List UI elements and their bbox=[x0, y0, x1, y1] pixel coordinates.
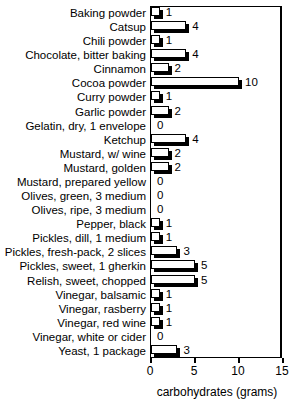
bar-value-label: 1 bbox=[166, 231, 172, 244]
bar-category-label: Baking powder bbox=[70, 6, 146, 21]
bar-value-label: 1 bbox=[166, 90, 172, 103]
bar-body bbox=[151, 106, 169, 115]
x-axis-tick bbox=[238, 358, 240, 363]
bar-body bbox=[151, 7, 160, 16]
bar-value-label: 4 bbox=[192, 133, 198, 146]
bar-row: Chili powder1 bbox=[0, 34, 294, 49]
bar-row: Pickles, dill, 1 medium1 bbox=[0, 231, 294, 246]
bar bbox=[151, 134, 190, 146]
bar-category-label: Vinegar, rasberry bbox=[59, 302, 146, 317]
bar bbox=[151, 77, 243, 89]
bar bbox=[151, 289, 164, 301]
x-axis-tick-label: 10 bbox=[223, 364, 253, 378]
bar-row: Vinegar, rasberry1 bbox=[0, 302, 294, 317]
bar bbox=[151, 7, 164, 19]
bar-value-label: 0 bbox=[157, 330, 163, 343]
bar-value-label: 0 bbox=[157, 175, 163, 188]
bar bbox=[151, 106, 173, 118]
bar-category-label: Mustard, golden bbox=[64, 161, 146, 176]
x-axis-tick bbox=[150, 358, 152, 363]
bar-body bbox=[151, 303, 160, 312]
bar-value-label: 2 bbox=[175, 147, 181, 160]
bar-value-label: 1 bbox=[166, 302, 172, 315]
bar-body bbox=[151, 148, 169, 157]
bar bbox=[151, 218, 164, 230]
bar-category-label: Vinegar, red wine bbox=[57, 316, 146, 331]
bar bbox=[151, 303, 164, 315]
bar bbox=[151, 148, 173, 160]
bar-category-label: Catsup bbox=[110, 20, 146, 35]
bar-body bbox=[151, 246, 177, 255]
bar bbox=[151, 275, 199, 287]
bar-category-label: Relish, sweet, chopped bbox=[27, 274, 146, 289]
bar-body bbox=[151, 289, 160, 298]
bar-value-label: 3 bbox=[183, 245, 189, 258]
bar-row: Olives, green, 3 medium0 bbox=[0, 189, 294, 204]
bar-row: Garlic powder2 bbox=[0, 105, 294, 120]
x-axis-title: carbohydrates (grams) bbox=[140, 385, 294, 399]
bar-row: Yeast, 1 package3 bbox=[0, 344, 294, 359]
bar-category-label: Cocoa powder bbox=[72, 76, 146, 91]
bar-row: Pickles, fresh-pack, 2 slices3 bbox=[0, 245, 294, 260]
bar-body bbox=[151, 260, 195, 269]
bar-body bbox=[151, 35, 160, 44]
bar-value-label: 10 bbox=[245, 76, 258, 89]
bar bbox=[151, 49, 190, 61]
bar bbox=[151, 91, 164, 103]
bar-value-label: 1 bbox=[166, 34, 172, 47]
bar-body bbox=[151, 232, 160, 241]
bar-body bbox=[151, 77, 239, 86]
bar-value-label: 5 bbox=[201, 274, 207, 287]
bar-value-label: 0 bbox=[157, 203, 163, 216]
bar-body bbox=[151, 162, 169, 171]
bar-category-label: Mustard, prepared yellow bbox=[17, 175, 146, 190]
bar-category-label: Ketchup bbox=[104, 133, 146, 148]
bar-category-label: Vinegar, white or cider bbox=[32, 330, 146, 345]
bar-value-label: 1 bbox=[166, 217, 172, 230]
bar bbox=[151, 232, 164, 244]
x-axis-tick-label: 5 bbox=[179, 364, 209, 378]
bar-row: Vinegar, white or cider0 bbox=[0, 330, 294, 345]
bar-category-label: Olives, green, 3 medium bbox=[21, 189, 146, 204]
bar-row: Vinegar, red wine1 bbox=[0, 316, 294, 331]
bar-row: Mustard, golden2 bbox=[0, 161, 294, 176]
bar-value-label: 1 bbox=[166, 316, 172, 329]
bar-body bbox=[151, 218, 160, 227]
bar-category-label: Pepper, black bbox=[76, 217, 146, 232]
chart-title: MISCELLANEOUS FOODS bbox=[0, 0, 294, 3]
bar-category-label: Mustard, w/ wine bbox=[60, 147, 146, 162]
x-axis-tick bbox=[282, 358, 284, 363]
bar bbox=[151, 345, 181, 357]
x-axis-tick-label: 15 bbox=[267, 364, 294, 378]
bar bbox=[151, 35, 164, 47]
bar bbox=[151, 162, 173, 174]
bar-row: Baking powder1 bbox=[0, 6, 294, 21]
bar-row: Ketchup4 bbox=[0, 133, 294, 148]
x-axis-tick-label: 0 bbox=[135, 364, 165, 378]
bar-value-label: 1 bbox=[166, 288, 172, 301]
bar-row: Cocoa powder10 bbox=[0, 76, 294, 91]
bar-body bbox=[151, 317, 160, 326]
bar-row: Olives, ripe, 3 medium0 bbox=[0, 203, 294, 218]
bar-body bbox=[151, 63, 169, 72]
bar-value-label: 4 bbox=[192, 48, 198, 61]
bar-category-label: Pickles, sweet, 1 gherkin bbox=[19, 259, 146, 274]
bar-value-label: 0 bbox=[157, 189, 163, 202]
bar-body bbox=[151, 49, 186, 58]
bar-body bbox=[151, 21, 186, 30]
bar-body bbox=[151, 91, 160, 100]
bar-category-label: Chili powder bbox=[83, 34, 146, 49]
bar-row: Gelatin, dry, 1 envelope0 bbox=[0, 119, 294, 134]
bar bbox=[151, 260, 199, 272]
bar-category-label: Chocolate, bitter baking bbox=[25, 48, 146, 63]
bar-value-label: 2 bbox=[175, 62, 181, 75]
bar bbox=[151, 63, 173, 75]
bar-value-label: 3 bbox=[183, 344, 189, 357]
bar-row: Vinegar, balsamic1 bbox=[0, 288, 294, 303]
bar-category-label: Garlic powder bbox=[75, 105, 146, 120]
bar-row: Catsup4 bbox=[0, 20, 294, 35]
bar-value-label: 5 bbox=[201, 259, 207, 272]
x-axis-tick bbox=[194, 358, 196, 363]
x-axis: 051015 bbox=[150, 358, 284, 388]
bar-row: Chocolate, bitter baking4 bbox=[0, 48, 294, 63]
